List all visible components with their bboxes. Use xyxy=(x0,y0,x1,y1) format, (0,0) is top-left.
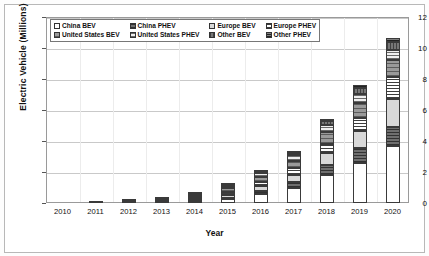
bar-segment xyxy=(188,199,202,201)
x-tick-label: 2019 xyxy=(351,207,368,216)
bar-segment xyxy=(221,195,235,198)
bar-segment xyxy=(221,186,235,189)
y-tick-label: 10 xyxy=(387,44,427,53)
bar-segment xyxy=(353,148,367,163)
x-tick-label: 2012 xyxy=(120,207,137,216)
bar-segment xyxy=(287,175,301,182)
legend-item[interactable]: United States PHEV xyxy=(130,31,200,39)
legend-swatch-icon xyxy=(266,23,272,29)
y-axis-title: Electric Vehicle (Millions) xyxy=(18,0,28,132)
bar-segment xyxy=(353,103,367,118)
legend-swatch-icon xyxy=(130,23,136,29)
y-tick-mark xyxy=(42,79,46,80)
legend-swatch-icon xyxy=(266,32,272,38)
bar-segment xyxy=(386,38,400,42)
bar-segment xyxy=(221,183,235,185)
legend-label: United States BEV xyxy=(62,31,120,39)
legend-item[interactable]: China BEV xyxy=(54,22,120,30)
chart-legend: China BEVChina PHEVEurope BEVEurope PHEV… xyxy=(50,19,320,42)
chart-container: Electric Vehicle (Millions) 024681012 20… xyxy=(0,0,429,256)
y-tick-mark xyxy=(42,203,46,204)
bar-segment xyxy=(320,121,334,125)
x-tick-label: 2014 xyxy=(186,207,203,216)
x-tick-label: 2010 xyxy=(54,207,71,216)
x-tick-label: 2018 xyxy=(318,207,335,216)
x-tick-label: 2020 xyxy=(384,207,401,216)
bar-segment xyxy=(320,125,334,132)
y-tick-mark xyxy=(42,141,46,142)
bar-segment xyxy=(353,88,367,93)
legend-swatch-icon xyxy=(130,32,136,38)
y-tick-label: 4 xyxy=(387,137,427,146)
legend-item[interactable]: United States BEV xyxy=(54,31,120,39)
x-tick-label: 2013 xyxy=(153,207,170,216)
bar-segment xyxy=(254,170,268,172)
legend-item[interactable]: Europe BEV xyxy=(209,22,255,30)
legend-label: China BEV xyxy=(62,22,96,30)
bar-segment xyxy=(320,153,334,165)
x-tick-label: 2011 xyxy=(87,207,103,216)
bar-segment xyxy=(287,182,301,187)
y-tick-mark xyxy=(42,48,46,49)
legend-label: Other PHEV xyxy=(274,31,311,39)
legend-item[interactable]: Europe PHEV xyxy=(266,22,317,30)
bar-segment xyxy=(287,168,301,174)
legend-label: United States PHEV xyxy=(138,31,200,39)
bar-segment xyxy=(221,192,235,194)
bar-segment xyxy=(122,199,136,201)
bar-segment xyxy=(221,188,235,192)
x-tick-label: 2017 xyxy=(285,207,302,216)
legend-item[interactable]: China PHEV xyxy=(130,22,200,30)
bar-segment xyxy=(254,177,268,182)
bar-segment xyxy=(254,186,268,191)
y-tick-label: 2 xyxy=(387,168,427,177)
bar-segment xyxy=(287,151,301,153)
legend-label: China PHEV xyxy=(138,22,176,30)
y-tick-label: 12 xyxy=(387,13,427,22)
x-tick-label: 2015 xyxy=(219,207,236,216)
y-tick-mark xyxy=(42,172,46,173)
legend-swatch-icon xyxy=(54,32,60,38)
bar-segment xyxy=(353,131,367,148)
legend-label: Europe PHEV xyxy=(274,22,317,30)
legend-label: Other BEV xyxy=(217,31,250,39)
bar-segment xyxy=(254,194,268,203)
bar-segment xyxy=(287,153,301,155)
bar-segment xyxy=(353,85,367,88)
bar-segment xyxy=(353,163,367,203)
bar-segment xyxy=(188,196,202,198)
x-axis-title: Year xyxy=(0,228,429,238)
bar-segment xyxy=(155,197,169,199)
legend-label: Europe BEV xyxy=(217,22,255,30)
y-tick-mark xyxy=(42,17,46,18)
bar-segment xyxy=(287,155,301,160)
bar-segment xyxy=(254,182,268,186)
bar-segment xyxy=(320,175,334,203)
bars-layer xyxy=(46,17,409,203)
bar-segment xyxy=(287,188,301,204)
bar-segment xyxy=(353,94,367,103)
legend-swatch-icon xyxy=(209,32,215,38)
bar-segment xyxy=(320,119,334,121)
y-tick-mark xyxy=(42,110,46,111)
y-tick-label: 6 xyxy=(387,106,427,115)
legend-swatch-icon xyxy=(209,23,215,29)
bar-segment xyxy=(320,165,334,175)
y-tick-label: 8 xyxy=(387,75,427,84)
legend-item[interactable]: Other PHEV xyxy=(266,31,317,39)
bar-segment xyxy=(254,173,268,177)
legend-item[interactable]: Other BEV xyxy=(209,31,255,39)
bar-segment xyxy=(89,201,103,203)
bar-segment xyxy=(254,191,268,194)
legend-swatch-icon xyxy=(54,23,60,29)
bar-segment xyxy=(188,192,202,194)
x-tick-label: 2016 xyxy=(252,207,269,216)
bar-segment xyxy=(353,118,367,131)
bar-segment xyxy=(221,199,235,203)
bar-segment xyxy=(320,144,334,154)
bar-segment xyxy=(320,132,334,144)
bar-segment xyxy=(287,161,301,169)
